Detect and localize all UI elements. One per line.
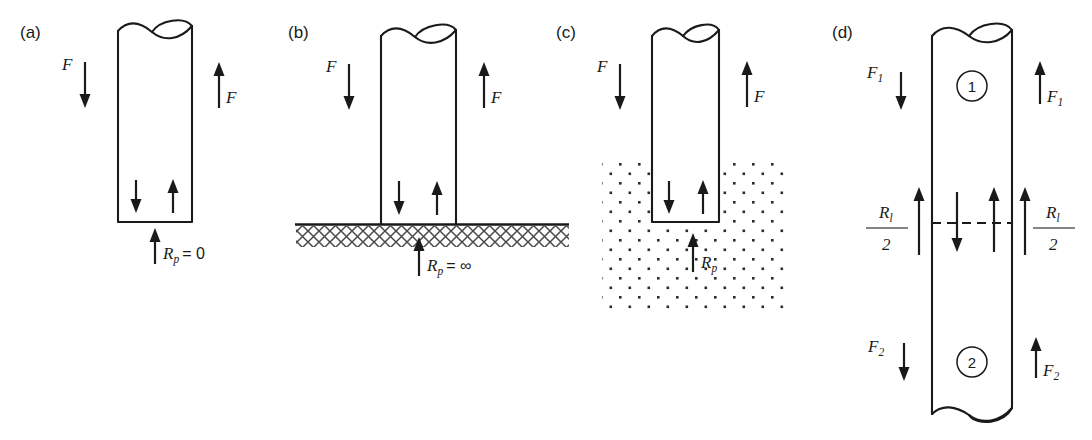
panel-a-base-reaction-subscript: p: [172, 253, 179, 266]
panel-d-segment-1-number: 1: [968, 78, 976, 95]
panel-d-interface-right-fraction: Rl 2: [1033, 203, 1075, 254]
panel-c-soil-body: [602, 160, 790, 312]
panel-a-right-force-label: F: [225, 88, 237, 107]
panel-a-left-force-arrow: [80, 62, 91, 108]
panel-b-right-force-label: F: [490, 88, 502, 107]
panel-d-bottom-left-force-arrow: [899, 343, 910, 381]
panel-d-top-right-force-symbol: F: [1046, 87, 1058, 106]
panel-d-top-right-force-arrow: [1035, 61, 1046, 104]
panel-d-top-right-force-subscript: 1: [1057, 96, 1063, 108]
panel-d-bottom-right-force-label: F2: [1042, 361, 1059, 382]
panel-c-right-force-label: F: [753, 87, 765, 106]
panel-c-right-force-arrow: [742, 61, 753, 107]
panel-c-pile-outline: [652, 25, 719, 222]
pile-load-transfer-figure: (a) F F: [0, 0, 1092, 440]
panel-d-segment-2-marker: 2: [957, 347, 987, 377]
panel-a-inner-left-arrow: [131, 180, 142, 213]
panel-b-left-force-arrow: [344, 64, 355, 110]
panel-c-left-force-label: F: [596, 57, 608, 76]
panel-c-base-reaction-symbol: R: [700, 253, 712, 272]
panel-d-top-left-force-label: F1: [866, 63, 883, 84]
panel-d-interface-left-numerator-symbol: R: [878, 203, 890, 222]
panel-a-base-reaction-arrow: [150, 228, 161, 264]
panel-b-base-reaction-value: = ∞: [446, 257, 471, 274]
panel-b-base-reaction-symbol: R: [426, 256, 438, 275]
panel-a-left-force-label: F: [61, 55, 73, 74]
panel-a: (a) F F: [20, 20, 237, 266]
panel-d-bottom-left-force-label: F2: [867, 337, 884, 358]
panel-c-inner-left-arrow: [664, 181, 675, 214]
panel-d-interface-right-numerator: Rl: [1045, 203, 1060, 224]
panel-d-interface-left-arrow: [914, 187, 925, 255]
panel-d-interface-right-denominator: 2: [1049, 235, 1058, 254]
panel-a-base-reaction-symbol: R: [162, 244, 174, 263]
panel-d-interface-right-arrow: [1020, 187, 1031, 255]
panel-d-interface-left-fraction: Rl 2: [866, 203, 908, 254]
panel-c-base-reaction-subscript: p: [710, 262, 717, 275]
panel-c: (c) F F: [556, 23, 790, 312]
panel-d-bottom-right-force-arrow: [1031, 337, 1042, 378]
panel-d-interface-left-numerator-subscript: l: [889, 212, 892, 224]
panel-b-rigid-stratum: [296, 226, 569, 247]
panel-b: (b) F F: [288, 23, 569, 278]
panel-d-interface-right-numerator-symbol: R: [1045, 203, 1057, 222]
panel-b-inner-left-arrow: [394, 181, 405, 215]
panel-b-pile-outline: [381, 25, 456, 224]
panel-d-bottom-right-force-symbol: F: [1042, 361, 1054, 380]
panel-a-inner-right-arrow: [168, 179, 179, 213]
panel-a-right-force-arrow: [214, 62, 225, 108]
panel-d-interface-inner-up-arrow: [989, 187, 1000, 252]
panel-d: (d) 1 2: [832, 23, 1075, 422]
panel-d-segment-2-number: 2: [968, 354, 976, 371]
panel-b-left-force-label: F: [325, 57, 337, 76]
panel-d-top-right-force-label: F1: [1046, 87, 1063, 108]
panel-d-segment-1-marker: 1: [957, 71, 987, 101]
panel-d-interface-left-denominator: 2: [882, 235, 891, 254]
figure-canvas: (a) F F: [0, 0, 1092, 440]
panel-b-label: (b): [288, 23, 309, 42]
panel-d-bottom-right-force-subscript: 2: [1053, 370, 1059, 382]
panel-a-base-reaction-label: Rp= 0: [162, 244, 205, 266]
panel-c-label: (c): [556, 23, 576, 42]
panel-a-pile-outline: [118, 20, 192, 222]
panel-d-label: (d): [832, 23, 853, 42]
panel-d-interface-left-numerator: Rl: [878, 203, 893, 224]
panel-c-inner-right-arrow: [698, 180, 709, 214]
panel-b-right-force-arrow: [479, 62, 490, 108]
panel-d-bottom-left-force-subscript: 2: [878, 346, 884, 358]
panel-b-base-reaction-subscript: p: [436, 265, 443, 278]
panel-d-bottom-left-force-symbol: F: [867, 337, 879, 356]
panel-a-base-reaction-value: = 0: [182, 245, 205, 262]
panel-d-top-left-force-subscript: 1: [877, 72, 883, 84]
panel-d-interface-right-numerator-subscript: l: [1056, 212, 1059, 224]
panel-d-top-left-force-arrow: [896, 72, 907, 110]
panel-a-label: (a): [20, 23, 41, 42]
panel-b-inner-right-arrow: [432, 181, 443, 215]
panel-c-left-force-arrow: [615, 64, 626, 110]
panel-d-top-left-force-symbol: F: [866, 63, 878, 82]
panel-b-base-reaction-label: Rp= ∞: [426, 256, 471, 278]
